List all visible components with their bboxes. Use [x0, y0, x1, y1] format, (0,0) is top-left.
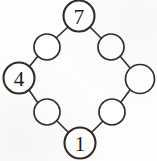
- node-lower-right[interactable]: [99, 99, 125, 125]
- node-bottom[interactable]: 1: [65, 128, 96, 159]
- cycle-graph-svg: 7 1 4: [0, 0, 157, 161]
- node-lower-left[interactable]: [34, 99, 60, 125]
- edge-right-to-lower-right: [121, 90, 130, 102]
- edge-upper-right-to-right: [120, 56, 130, 68]
- edge-lower-right-to-bottom: [91, 121, 103, 133]
- node-left-label: 4: [14, 67, 25, 91]
- node-upper-right-circle[interactable]: [98, 34, 124, 60]
- edge-lower-left-to-left: [29, 90, 38, 103]
- node-upper-left[interactable]: [34, 34, 60, 60]
- node-right[interactable]: [126, 65, 155, 94]
- node-lower-right-circle[interactable]: [99, 99, 125, 125]
- node-upper-left-circle[interactable]: [34, 34, 60, 60]
- node-lower-left-circle[interactable]: [34, 99, 60, 125]
- node-upper-right[interactable]: [98, 34, 124, 60]
- edge-left-to-upper-left: [29, 56, 38, 67]
- node-left[interactable]: 4: [4, 63, 35, 94]
- node-right-circle[interactable]: [126, 65, 155, 94]
- edge-top-to-upper-right: [90, 27, 102, 39]
- edge-upper-left-to-top: [56, 27, 68, 38]
- node-top-label: 7: [74, 5, 85, 29]
- node-top[interactable]: 7: [64, 1, 95, 32]
- node-group: 7 1 4: [4, 1, 155, 159]
- edge-bottom-to-lower-left: [57, 121, 69, 133]
- diagram-canvas: 7 1 4: [0, 0, 157, 161]
- node-bottom-label: 1: [75, 132, 86, 156]
